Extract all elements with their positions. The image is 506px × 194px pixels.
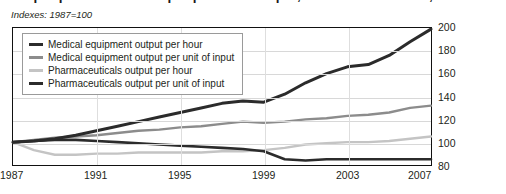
y-axis-tick-label: 160	[438, 68, 456, 79]
gridline-horizontal	[13, 121, 431, 122]
x-axis-tick-label: 1991	[84, 170, 107, 181]
legend-item: Pharmaceuticals output per unit of input	[29, 77, 234, 90]
legend-swatch-icon	[29, 82, 43, 85]
y-axis-tick-label: 200	[438, 22, 456, 33]
chart-figure: Output per hour and output per unit of i…	[0, 0, 506, 194]
x-axis-tick-label: 1999	[252, 170, 275, 181]
legend-item-label: Pharmaceuticals output per hour	[48, 64, 193, 77]
gridline-horizontal	[13, 98, 431, 99]
legend-item: Pharmaceuticals output per hour	[29, 64, 234, 77]
legend-item: Medical equipment output per hour	[29, 38, 234, 51]
legend-swatch-icon	[29, 56, 43, 58]
gridline-horizontal	[13, 144, 431, 145]
legend-item-label: Medical equipment output per hour	[48, 38, 203, 51]
chart-subtitle: Indexes: 1987=100	[11, 9, 92, 20]
x-axis-tick-label: 2007	[408, 170, 431, 181]
y-axis-tick-label: 80	[438, 161, 450, 172]
legend-item-label: Pharmaceuticals output per unit of input	[48, 77, 224, 90]
y-axis-tick-label: 100	[438, 138, 456, 149]
legend-item: Medical equipment output per unit of inp…	[29, 51, 234, 64]
legend-swatch-icon	[29, 69, 43, 71]
y-axis-tick-label: 140	[438, 92, 456, 103]
x-axis-tick-label: 1995	[168, 170, 191, 181]
x-axis-tick-label: 2003	[336, 170, 359, 181]
chart-title: Output per hour and output per unit of i…	[10, 0, 490, 3]
y-axis-tick-label: 120	[438, 115, 456, 126]
legend-swatch-icon	[29, 43, 43, 46]
chart-legend: Medical equipment output per hourMedical…	[22, 33, 243, 95]
y-axis-tick-label: 180	[438, 45, 456, 56]
gridline-vertical	[265, 28, 266, 165]
legend-item-label: Medical equipment output per unit of inp…	[48, 51, 234, 64]
gridline-vertical	[349, 28, 350, 165]
x-axis-tick-label: 1987	[0, 170, 23, 181]
